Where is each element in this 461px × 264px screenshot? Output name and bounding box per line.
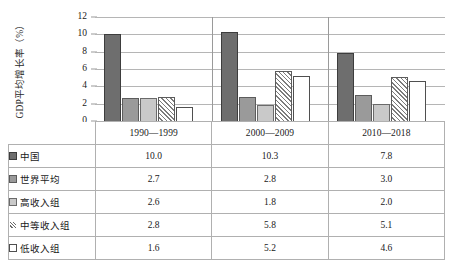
data-table: 1990—1999 2000—2009 2010—2018 中国10.010.3…: [8, 121, 445, 260]
bar-group-3: [328, 17, 445, 121]
legend-label: 中等收入组: [20, 218, 70, 232]
table-cell-高收入组-1990—1999: 2.6: [96, 191, 212, 214]
data-table-wrap: 1990—1999 2000—2009 2010—2018 中国10.010.3…: [8, 121, 445, 260]
table-cell-中等收入组-1990—1999: 2.8: [96, 214, 212, 237]
chart-figure: GDP平均增长率（%） 121086420 1990—1999 2000—200…: [0, 0, 461, 264]
bar-中国-1990—1999: [104, 34, 121, 121]
legend-label: 中国: [20, 149, 40, 163]
bar-中等收入组-2000—2009: [275, 71, 292, 121]
y-axis-tick-labels: 121086420: [58, 17, 91, 121]
bar-世界平均-1990—1999: [122, 98, 139, 121]
bar-中等收入组-1990—1999: [158, 97, 175, 121]
legend-swatch-icon-3: [9, 221, 17, 229]
table-header-period-2: 2000—2009: [212, 122, 328, 145]
table-cell-中国-1990—1999: 10.0: [96, 145, 212, 168]
table-cell-低收入组-2000—2009: 5.2: [212, 237, 328, 260]
table-row: 低收入组1.65.24.6: [9, 237, 445, 260]
y-axis-title-text: GDP平均增长率（%）: [12, 19, 26, 118]
bar-groups: [95, 17, 445, 121]
table-cell-低收入组-1990—1999: 1.6: [96, 237, 212, 260]
y-tick-label-12: 12: [78, 12, 88, 22]
bar-世界平均-2000—2009: [239, 97, 256, 121]
bar-低收入组-2010—2018: [409, 81, 426, 121]
table-cell-世界平均-2000—2009: 2.8: [212, 168, 328, 191]
bar-group-1: [95, 17, 212, 121]
legend-swatch-icon-2: [9, 198, 17, 206]
table-header-period-1: 1990—1999: [96, 122, 212, 145]
legend-cell-中等收入组: 中等收入组: [9, 214, 96, 237]
y-tick-label-2: 2: [82, 99, 87, 109]
legend-label: 高收入组: [20, 195, 60, 209]
table-corner-cell: [9, 122, 96, 145]
bar-世界平均-2010—2018: [355, 95, 372, 121]
table-row: 中国10.010.37.8: [9, 145, 445, 168]
table-row: 高收入组2.61.82.0: [9, 191, 445, 214]
bar-中国-2000—2009: [221, 32, 238, 121]
bar-中国-2010—2018: [337, 53, 354, 121]
legend-cell-低收入组: 低收入组: [9, 237, 96, 260]
bar-group-2: [212, 17, 329, 121]
table-cell-高收入组-2000—2009: 1.8: [212, 191, 328, 214]
y-tick-label-10: 10: [78, 30, 88, 40]
legend-cell-中国: 中国: [9, 145, 96, 168]
table-body: 中国10.010.37.8世界平均2.72.83.0高收入组2.61.82.0中…: [9, 145, 445, 260]
legend-label: 世界平均: [20, 172, 60, 186]
legend-swatch-icon-1: [9, 175, 17, 183]
table-cell-低收入组-2010—2018: 4.6: [328, 237, 444, 260]
legend-swatch-icon-4: [9, 244, 17, 252]
table-cell-世界平均-2010—2018: 3.0: [328, 168, 444, 191]
y-tick-label-6: 6: [82, 64, 87, 74]
bar-高收入组-2000—2009: [257, 105, 274, 121]
legend-cell-世界平均: 世界平均: [9, 168, 96, 191]
table-cell-中等收入组-2010—2018: 5.1: [328, 214, 444, 237]
table-row: 中等收入组2.85.85.1: [9, 214, 445, 237]
y-axis-title: GDP平均增长率（%）: [8, 10, 30, 128]
table-row: 世界平均2.72.83.0: [9, 168, 445, 191]
legend-cell-高收入组: 高收入组: [9, 191, 96, 214]
table-cell-中等收入组-2000—2009: 5.8: [212, 214, 328, 237]
plot-area: [95, 17, 445, 121]
table-header-period-3: 2010—2018: [328, 122, 444, 145]
legend-label: 低收入组: [20, 241, 60, 255]
bar-高收入组-2010—2018: [373, 104, 390, 121]
table-header-row: 1990—1999 2000—2009 2010—2018: [9, 122, 445, 145]
bar-低收入组-1990—1999: [176, 107, 193, 121]
table-cell-中国-2000—2009: 10.3: [212, 145, 328, 168]
bar-低收入组-2000—2009: [293, 76, 310, 121]
group-separator: [328, 17, 329, 121]
bar-中等收入组-2010—2018: [391, 77, 408, 121]
y-tick-label-8: 8: [82, 47, 87, 57]
y-tick-label-4: 4: [82, 82, 87, 92]
table-cell-世界平均-1990—1999: 2.7: [96, 168, 212, 191]
group-separator: [212, 17, 213, 121]
bar-高收入组-1990—1999: [140, 98, 157, 121]
table-cell-高收入组-2010—2018: 2.0: [328, 191, 444, 214]
legend-swatch-icon-0: [9, 152, 17, 160]
table-cell-中国-2010—2018: 7.8: [328, 145, 444, 168]
